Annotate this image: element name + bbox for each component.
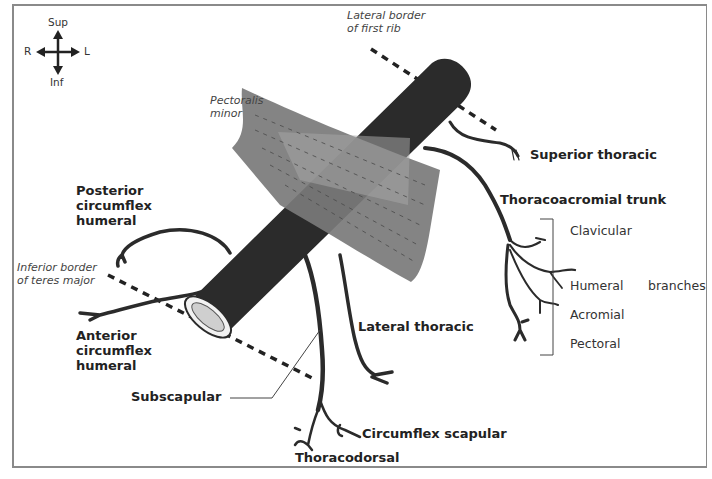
branches-group-label: branches	[648, 279, 706, 293]
superior-thoracic-label: Superior thoracic	[530, 148, 657, 163]
anterior-circumflex-humeral-label: Anterior circumflex humeral	[76, 329, 152, 374]
lateral-thoracic-label: Lateral thoracic	[358, 320, 474, 335]
orientation-compass-icon	[36, 30, 80, 75]
posterior-circumflex-humeral-label: Posterior circumflex humeral	[76, 184, 152, 229]
subscapular-leader-line	[230, 330, 320, 398]
thoracodorsal-label: Thoracodorsal	[295, 451, 400, 466]
teres-major-label: Inferior border of teres major	[17, 262, 97, 287]
acromial-branch-label: Acromial	[570, 308, 625, 322]
first-rib-label: Lateral border of first rib	[347, 10, 425, 35]
thoracoacromial-trunk-label: Thoracoacromial trunk	[500, 193, 666, 208]
pectoralis-minor-label: Pectoralis minor	[210, 95, 264, 120]
superior-label: Sup	[48, 16, 68, 28]
right-label: R	[24, 45, 31, 57]
inferior-label: Inf	[50, 76, 63, 88]
circumflex-scapular-label: Circumflex scapular	[362, 427, 507, 442]
axillary-artery-diagram	[0, 0, 712, 479]
subscapular-label: Subscapular	[131, 390, 221, 405]
pectoral-branch-label: Pectoral	[570, 337, 620, 351]
humeral-branch-label: Humeral	[570, 279, 623, 293]
left-label: L	[84, 45, 90, 57]
clavicular-branch-label: Clavicular	[570, 224, 632, 238]
